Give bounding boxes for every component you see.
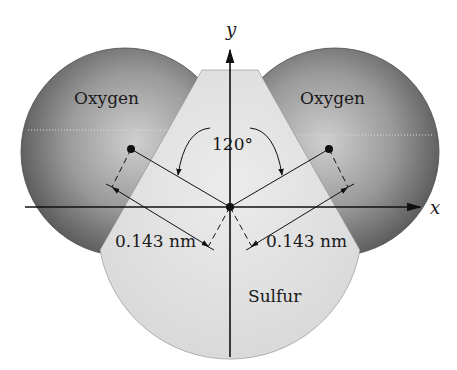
oxygen-left-label: Oxygen (74, 88, 139, 108)
bond-length-right: 0.143 nm (266, 231, 347, 251)
so2-molecule-diagram: Oxygen Oxygen Sulfur 120° 0.143 nm 0.143… (0, 0, 457, 370)
oxygen-right-label: Oxygen (300, 88, 365, 108)
y-axis-label: y (225, 19, 237, 40)
angle-label: 120° (212, 134, 253, 154)
bond-length-left: 0.143 nm (115, 231, 196, 251)
sulfur-label: Sulfur (248, 286, 302, 306)
x-axis-label: x (430, 197, 440, 218)
